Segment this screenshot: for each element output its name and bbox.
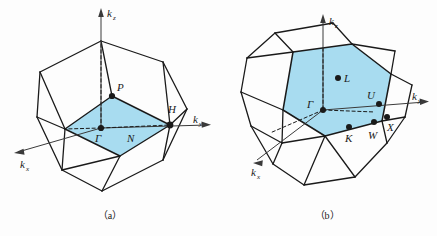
figure-page: k z k y k x Γ N P H （a） <box>0 0 437 236</box>
dot-l-b <box>335 75 341 81</box>
panel-a-bcc-brillouin-zone: k z k y k x Γ N P H <box>0 0 220 236</box>
dot-h-a <box>167 122 174 129</box>
dot-w-b <box>371 119 377 125</box>
arrow-kz-a <box>98 8 104 17</box>
label-k-b: K <box>344 132 353 144</box>
label-n-a: N <box>126 132 135 144</box>
label-gamma-b: Γ <box>306 98 314 110</box>
arrow-kx-a <box>14 149 25 155</box>
dot-gamma-b <box>320 107 326 113</box>
dot-k-b <box>346 124 352 130</box>
panel-b-fcc-brillouin-zone: k z k y k x Γ L U K W X <box>215 0 437 236</box>
caption-a: （a） <box>80 207 140 222</box>
label-h-a: H <box>167 103 177 115</box>
label-l-b: L <box>343 72 350 84</box>
axis-label-kz-a-sub: z <box>112 14 116 22</box>
dot-p-a <box>109 93 115 99</box>
caption-b: （b） <box>297 207 357 222</box>
panel-b-drawing: k z k y k x Γ L U K W X <box>215 0 437 210</box>
axis-label-kz-b-sub: z <box>334 22 338 30</box>
dot-gamma-a <box>98 125 104 131</box>
label-x-b: X <box>386 121 395 133</box>
label-gamma-a: Γ <box>94 132 102 144</box>
axis-label-kx-a-sub: x <box>25 165 30 173</box>
panel-a-drawing: k z k y k x Γ N P H <box>0 0 220 210</box>
label-p-a: P <box>116 81 124 93</box>
axis-label-kx-b-sub: x <box>256 173 261 181</box>
dot-u-b <box>376 101 382 107</box>
arrow-kz-b <box>320 14 326 23</box>
dot-x-b <box>384 114 390 120</box>
label-w-b: W <box>368 129 378 141</box>
label-u-b: U <box>367 89 376 101</box>
arrow-ky-a <box>202 122 212 128</box>
